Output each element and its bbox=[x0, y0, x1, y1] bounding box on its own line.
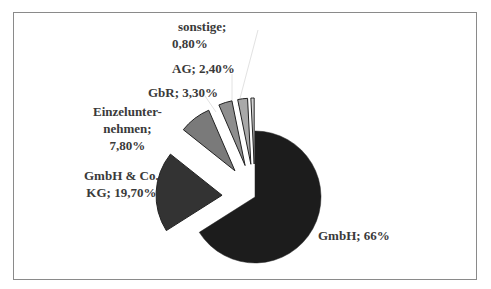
label-sonstige: sonstige; 0,80% bbox=[172, 18, 226, 52]
label-einzel-line3: 7,80% bbox=[93, 137, 162, 154]
label-sonstige-line2: 0,80% bbox=[172, 35, 226, 52]
pie-chart bbox=[0, 0, 491, 289]
label-gbr: GbR; 3,30% bbox=[148, 84, 218, 101]
label-ag: AG; 2,40% bbox=[172, 60, 235, 77]
label-gbr-line1: GbR; 3,30% bbox=[148, 84, 218, 101]
label-gmbh: GmbH; 66% bbox=[318, 227, 390, 244]
label-ag-line1: AG; 2,40% bbox=[172, 60, 235, 77]
label-gmbh-co-kg: GmbH & Co. KG; 19,70% bbox=[84, 167, 159, 201]
label-kg-line1: GmbH & Co. bbox=[84, 167, 159, 184]
pie-slice-ag bbox=[238, 98, 251, 164]
label-gmbh-line1: GmbH; 66% bbox=[318, 227, 390, 244]
leader-line bbox=[238, 30, 258, 106]
label-kg-line2: KG; 19,70% bbox=[84, 184, 159, 201]
pie-slice-sonstige bbox=[251, 98, 254, 164]
pie-slice-gmbh-co-kg bbox=[156, 154, 222, 230]
label-einzelunternehmen: Einzelunter- nehmen; 7,80% bbox=[93, 103, 162, 154]
label-sonstige-line1: sonstige; bbox=[172, 18, 226, 35]
label-einzel-line1: Einzelunter- bbox=[93, 103, 162, 120]
label-einzel-line2: nehmen; bbox=[93, 120, 162, 137]
